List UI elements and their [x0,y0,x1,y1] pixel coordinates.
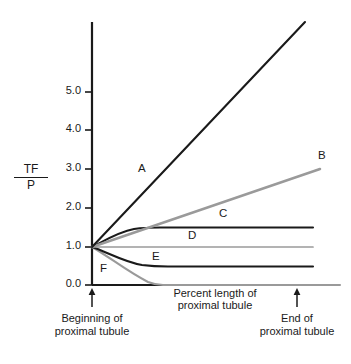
series-label-a: A [138,162,146,174]
end-annotation-line2: proximal tubule [237,326,351,338]
series-label-f: F [100,262,107,274]
begin-arrow-icon [89,288,96,307]
y-axis-tick-label-3: 3.0 [53,162,81,174]
y-axis-tick-label-5: 5.0 [53,85,81,97]
x-axis-title-line2: proximal tubule [155,300,275,312]
series-line-b [92,169,320,247]
series-label-c: C [219,207,227,219]
end-arrow-icon [294,288,301,307]
y-axis-title-denominator: P [14,178,48,192]
end-annotation-line1: End of [237,313,351,325]
series-label-e: E [152,250,160,262]
series-line-e [92,247,313,267]
y-axis-tick-label-2: 2.0 [53,201,81,213]
series-label-b: B [318,149,326,161]
y-axis-tick-label-1: 1.0 [53,240,81,252]
y-axis-tick-label-4: 4.0 [53,123,81,135]
begin-annotation-line2: proximal tubule [32,326,152,338]
y-axis-tick-label-0: 0.0 [53,278,81,290]
y-axis-title: TF P [14,163,48,192]
chart-container: 5.0 4.0 3.0 2.0 1.0 0.0 TF P A B C D E F… [0,0,351,364]
series-label-d: D [188,229,196,241]
series-line-a [92,22,305,247]
series-line-c [92,228,313,248]
begin-annotation-line1: Beginning of [32,313,152,325]
y-axis-title-numerator: TF [14,163,48,178]
